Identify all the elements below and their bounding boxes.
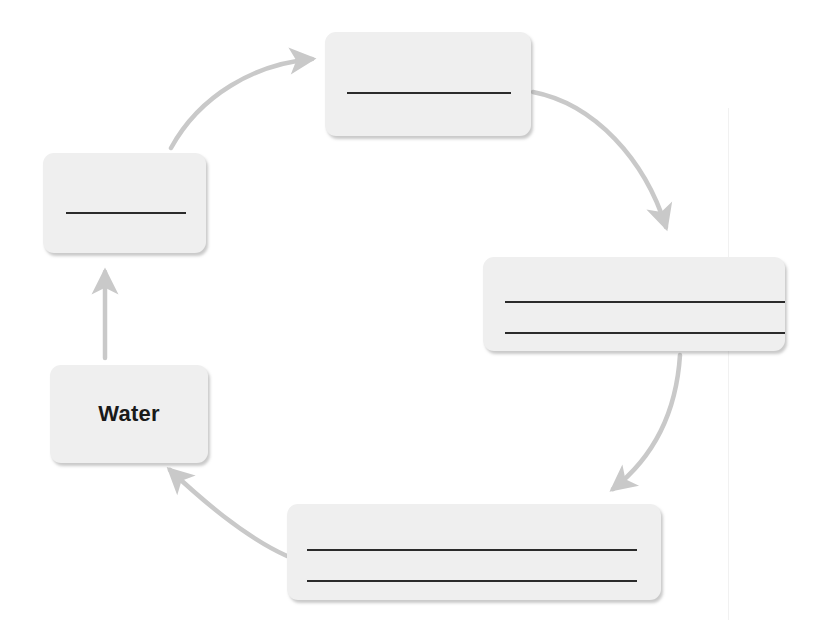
- diagram-node-bottom[interactable]: [287, 504, 661, 600]
- blank-rules-left: [43, 153, 206, 253]
- blank-rules-bottom: [287, 504, 661, 600]
- blank-rules-top: [325, 32, 531, 136]
- blank-rules-right: [483, 257, 785, 351]
- diagram-node-top[interactable]: [325, 32, 531, 136]
- blank-rule[interactable]: [307, 580, 637, 582]
- blank-rule[interactable]: [505, 332, 785, 334]
- diagram-node-left[interactable]: [43, 153, 206, 253]
- arrow-bottom-to-water: [170, 470, 287, 556]
- diagram-node-water[interactable]: Water: [50, 365, 208, 463]
- diagram-node-water-label: Water: [98, 403, 159, 425]
- blank-rule[interactable]: [307, 549, 637, 551]
- diagram-node-right[interactable]: [483, 257, 785, 351]
- blank-rule[interactable]: [66, 212, 186, 214]
- arrow-left-to-top: [171, 59, 312, 148]
- diagram-canvas: Water: [0, 0, 831, 638]
- blank-rule[interactable]: [505, 301, 785, 303]
- blank-rule[interactable]: [347, 92, 511, 94]
- arrow-top-to-right: [533, 92, 666, 227]
- arrow-right-to-bottom: [613, 355, 680, 489]
